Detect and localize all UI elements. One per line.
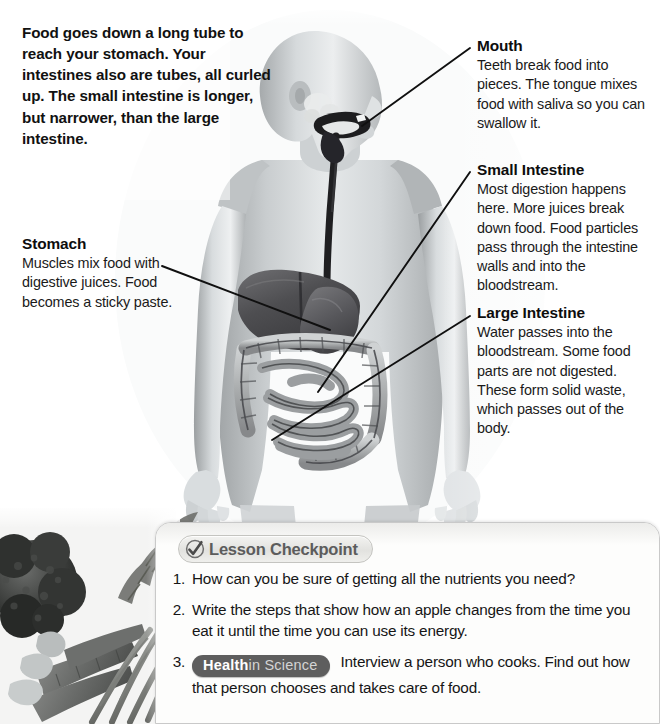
head-shape xyxy=(260,31,382,160)
callout-large-intestine-title: Large Intestine xyxy=(477,303,655,322)
stomach-organ xyxy=(300,287,359,354)
question-3-number: 3. xyxy=(168,651,192,673)
checkpoint-question-2: 2. Write the steps that show how an appl… xyxy=(168,599,654,642)
lesson-checkpoint-panel: Lesson Checkpoint 1. How can you be sure… xyxy=(155,522,660,724)
callout-large-intestine-body: Water passes into the bloodstream. Some … xyxy=(477,323,655,438)
large-intestine-organ xyxy=(241,341,380,464)
mouth-organ xyxy=(314,112,371,139)
textbook-page: Food goes down a long tube to reach your… xyxy=(0,0,660,724)
question-2-text: Write the steps that show how an apple c… xyxy=(192,599,654,642)
esophagus xyxy=(327,136,336,286)
torso-shape xyxy=(216,160,444,512)
right-arm xyxy=(418,206,470,478)
checkpoint-question-3: 3. Healthin Science Interview a person w… xyxy=(168,651,654,699)
leader-line-mouth xyxy=(362,48,470,126)
left-arm xyxy=(194,206,246,478)
broccoli xyxy=(0,540,78,628)
checkpoint-question-1: 1. How can you be sure of getting all th… xyxy=(168,568,654,590)
salivary-glands xyxy=(304,93,340,123)
intro-paragraph: Food goes down a long tube to reach your… xyxy=(22,22,272,149)
question-1-number: 1. xyxy=(168,568,192,590)
callout-mouth-title: Mouth xyxy=(477,36,655,55)
neck-shape xyxy=(300,110,360,172)
lesson-checkpoint-label: Lesson Checkpoint xyxy=(209,540,358,559)
large-intestine-outline xyxy=(241,341,380,464)
callout-small-intestine-body: Most digestion happens here. More juices… xyxy=(477,180,657,295)
callout-mouth-body: Teeth break food into pieces. The tongue… xyxy=(477,56,655,133)
small-intestine-outline xyxy=(262,364,359,451)
question-1-text: How can you be sure of getting all the n… xyxy=(192,568,654,590)
liver-organ xyxy=(238,270,360,351)
callout-mouth: Mouth Teeth break food into pieces. The … xyxy=(477,36,655,133)
small-intestine-organ xyxy=(262,364,359,455)
question-3-text-wrapper: Healthin Science Interview a person who … xyxy=(192,651,654,699)
callout-stomach: Stomach Muscles mix food with digestive … xyxy=(22,234,192,312)
callout-stomach-body: Muscles mix food with digestive juices. … xyxy=(22,254,192,311)
hand-holding-vegetables xyxy=(36,632,65,658)
callout-stomach-title: Stomach xyxy=(22,234,192,253)
question-2-number: 2. xyxy=(168,599,192,621)
right-hand xyxy=(435,470,481,527)
carrot xyxy=(30,666,134,722)
left-hand xyxy=(184,470,230,527)
health-in-science-light: in Science xyxy=(249,657,318,673)
leader-line-large-intestine xyxy=(272,316,470,440)
health-in-science-badge: Healthin Science xyxy=(192,655,330,677)
check-mark-icon xyxy=(185,539,205,559)
health-in-science-strong: Health xyxy=(203,657,249,673)
lesson-checkpoint-badge: Lesson Checkpoint xyxy=(178,535,373,563)
callout-small-intestine-title: Small Intestine xyxy=(477,160,657,179)
leader-line-small-intestine xyxy=(318,172,470,392)
carrot xyxy=(36,642,138,696)
callout-small-intestine: Small Intestine Most digestion happens h… xyxy=(477,160,657,295)
checkpoint-question-list: 1. How can you be sure of getting all th… xyxy=(168,568,654,708)
callout-large-intestine: Large Intestine Water passes into the bl… xyxy=(477,303,655,438)
